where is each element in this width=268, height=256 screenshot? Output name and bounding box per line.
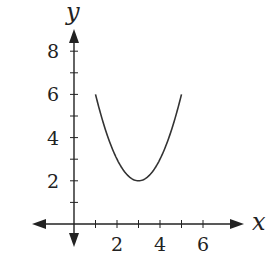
- x-axis-right-arrow-icon: [230, 219, 244, 229]
- tick-marks: [70, 51, 203, 228]
- chart-svg: 2462468 x y: [0, 0, 268, 256]
- x-axis-left-arrow-icon: [32, 219, 46, 229]
- chart: 2462468 x y: [0, 0, 268, 256]
- y-tick-label: 4: [47, 127, 59, 149]
- y-axis-label: y: [65, 0, 80, 26]
- x-tick-label: 2: [111, 233, 123, 255]
- x-axis-label: x: [252, 208, 266, 236]
- y-axis-up-arrow-icon: [69, 29, 79, 43]
- parabola-curve: [96, 94, 182, 180]
- y-axis-down-arrow-icon: [69, 233, 79, 247]
- x-tick-label: 4: [154, 233, 166, 255]
- x-tick-label: 6: [197, 233, 209, 255]
- y-tick-label: 8: [47, 40, 59, 62]
- y-tick-label: 2: [47, 170, 59, 192]
- axes: [32, 29, 244, 247]
- y-tick-label: 6: [47, 83, 59, 105]
